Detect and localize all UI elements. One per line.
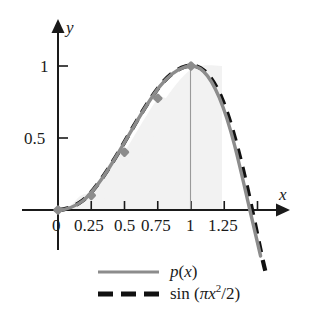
x-axis-label: x <box>279 186 287 203</box>
chart-figure: 1 0.5 0 0.25 0.5 0.75 1 1.25 y x p(x) si… <box>0 0 327 324</box>
y-axis-arrowhead <box>52 19 65 33</box>
y-tick-label-1: 1 <box>40 58 49 75</box>
plot-canvas <box>0 0 327 324</box>
x-tick-label-0: 0 <box>52 217 61 234</box>
x-tick-label-0point25: 0.25 <box>74 217 104 234</box>
y-axis-ticks <box>58 66 68 138</box>
x-tick-label-1: 1 <box>186 217 195 234</box>
y-axis-label: y <box>66 19 74 36</box>
legend-label-p: p(x) <box>170 263 197 280</box>
x-tick-label-1point25: 1.25 <box>208 217 238 234</box>
y-tick-label-0point5: 0.5 <box>24 130 45 147</box>
x-tick-label-0point5: 0.5 <box>114 217 135 234</box>
x-tick-label-0point75: 0.75 <box>141 217 171 234</box>
data-point-marker <box>53 205 64 216</box>
x-axis-arrowhead <box>276 204 290 217</box>
legend-label-sin: sin (πx2/2) <box>170 285 240 302</box>
